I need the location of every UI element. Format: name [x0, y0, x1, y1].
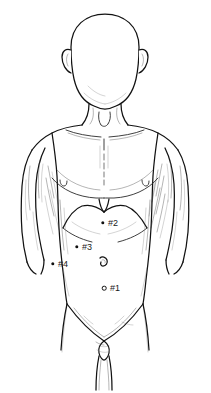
marker-label-2: #2	[108, 219, 118, 228]
marker-label-4: #4	[58, 260, 68, 269]
marker-label-3: #3	[82, 243, 92, 252]
marker-label-1: #1	[110, 284, 120, 293]
right-arm-group	[149, 148, 189, 274]
torso-diagram: .ln { fill:none; stroke:#121212; stroke-…	[0, 0, 211, 393]
torso-group	[52, 133, 158, 341]
head-group	[62, 14, 148, 109]
left-arm-group	[21, 148, 59, 274]
marker-dot-1[interactable]	[102, 286, 107, 291]
anatomy-line-art: .ln { fill:none; stroke:#121212; stroke-…	[0, 0, 211, 393]
pelvis-group	[61, 304, 149, 390]
